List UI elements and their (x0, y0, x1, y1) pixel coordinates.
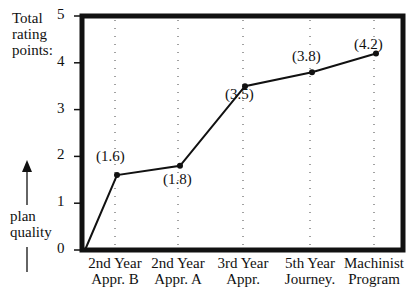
x-category-5: MachinistProgram (344, 255, 404, 287)
y-label-line: quality (10, 224, 52, 240)
data-label-4: (3.8) (292, 48, 321, 65)
y-tick-0: 0 (57, 240, 65, 257)
y-label-line: rating (12, 26, 53, 42)
data-label-1: (1.6) (96, 148, 125, 165)
data-label-5: (4.2) (354, 36, 383, 53)
y-tick-1: 1 (57, 193, 65, 210)
y-label-line: points: (12, 42, 53, 58)
data-point (309, 69, 315, 75)
y-axis-label-top: Total rating points: (12, 10, 53, 58)
y-label-line: Total (12, 10, 53, 26)
series-line (85, 53, 376, 250)
x-category-2: 2nd YearAppr. A (151, 255, 204, 287)
y-label-line: plan (10, 208, 52, 224)
data-point (114, 172, 120, 178)
series-markers (114, 50, 379, 178)
y-tick-3: 3 (57, 100, 65, 117)
y-tick-4: 4 (57, 53, 65, 70)
y-tick-2: 2 (57, 146, 65, 163)
vertical-grid (115, 20, 374, 248)
y-tick-5: 5 (57, 6, 65, 23)
data-label-2: (1.8) (163, 171, 192, 188)
x-category-4: 5th YearJourney. (285, 255, 335, 287)
data-point (177, 163, 183, 169)
y-axis-label-bottom: plan quality (10, 208, 52, 240)
data-label-3: (3.5) (225, 86, 254, 103)
x-category-3: 3rd YearAppr. (218, 255, 269, 287)
x-category-1: 2nd YearAppr. B (88, 255, 141, 287)
